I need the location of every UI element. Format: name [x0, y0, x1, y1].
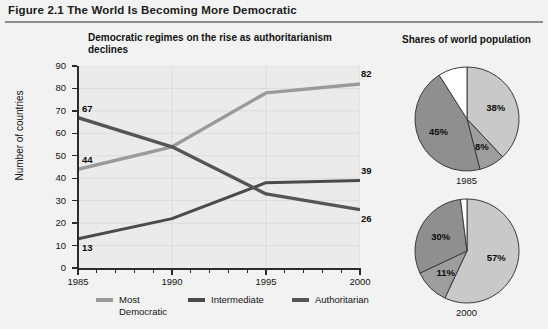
legend-item[interactable]: Most Democratic [96, 294, 167, 317]
y-tick-label: 90 [0, 60, 75, 71]
line-chart-panel: Democratic regimes on the rise as author… [0, 26, 385, 329]
y-tick-label: 80 [0, 82, 75, 93]
y-tick-label: 70 [0, 105, 75, 116]
x-tick [134, 269, 135, 273]
x-tick [228, 269, 229, 273]
x-tick [359, 269, 360, 275]
series-line-authoritarian [78, 118, 360, 210]
legend-swatch-icon [292, 298, 309, 302]
y-axis-line [77, 66, 79, 269]
figure-header: Figure 2.1 The World Is Becoming More De… [0, 0, 548, 26]
x-tick [171, 269, 172, 275]
x-tick [190, 269, 191, 273]
y-tick-label: 0 [0, 262, 75, 273]
pie-slice-label: 30% [431, 231, 451, 242]
x-tick-label: 1995 [246, 276, 286, 287]
pie-svg: 57%11%30% [412, 196, 522, 306]
x-tick [153, 269, 154, 273]
legend-label: Authoritarian [315, 294, 369, 306]
series-lines [78, 84, 360, 239]
x-tick [247, 269, 248, 273]
y-tick-label: 40 [0, 172, 75, 183]
series-line-intermediate [78, 180, 360, 238]
pie-chart-1985: 38%8%45%1985 [385, 64, 548, 192]
pie-slice-label: 11% [436, 267, 455, 278]
y-tick-label: 60 [0, 127, 75, 138]
x-axis-line [77, 268, 361, 270]
x-tick [209, 269, 210, 273]
pie-caption: 1985 [385, 175, 548, 186]
pie-chart-2000: 57%11%30%2000 [385, 196, 548, 324]
y-axis-label: Number of countries [14, 61, 25, 211]
point-label-intermediate-1985: 13 [82, 242, 93, 253]
x-tick [284, 269, 285, 273]
plot-area [78, 66, 360, 268]
legend-label: Most Democratic [119, 294, 167, 317]
page-title: Figure 2.1 The World Is Becoming More De… [8, 4, 297, 16]
x-tick [341, 269, 342, 273]
line-chart-svg [78, 66, 360, 268]
pie-caption: 2000 [385, 307, 548, 318]
x-tick [265, 269, 266, 275]
legend-swatch-icon [188, 298, 205, 302]
pie-slice-label: 38% [486, 102, 506, 113]
title-divider [5, 21, 543, 23]
point-label-most-democratic-2000: 82 [361, 68, 372, 79]
legend-item[interactable]: Intermediate [188, 294, 264, 306]
point-label-authoritarian-2000: 26 [361, 213, 372, 224]
series-line-most-democratic [78, 84, 360, 169]
legend-item[interactable]: Authoritarian [292, 294, 369, 306]
x-tick [115, 269, 116, 273]
point-label-most-democratic-1985: 44 [82, 154, 93, 165]
pie-chart-panel: Shares of world population 38%8%45%1985 … [385, 26, 548, 329]
pie-slice-label: 45% [429, 126, 449, 137]
x-tick-label: 2000 [340, 276, 380, 287]
x-tick [322, 269, 323, 273]
pie-slice-label: 8% [475, 141, 489, 152]
x-tick [303, 269, 304, 273]
legend-label: Intermediate [211, 294, 264, 306]
x-tick-label: 1990 [152, 276, 192, 287]
point-label-authoritarian-1985: 67 [82, 103, 93, 114]
y-tick-label: 50 [0, 150, 75, 161]
legend-swatch-icon [96, 298, 113, 302]
x-tick [96, 269, 97, 273]
x-tick-label: 1985 [58, 276, 98, 287]
y-tick-label: 20 [0, 217, 75, 228]
y-tick-label: 10 [0, 240, 75, 251]
pie-svg: 38%8%45% [412, 64, 522, 174]
x-tick [77, 269, 78, 275]
gridlines [78, 66, 360, 268]
legend: Most DemocraticIntermediateAuthoritarian [96, 294, 386, 328]
line-chart-title: Democratic regimes on the rise as author… [88, 32, 338, 56]
pie-slice-label: 57% [486, 252, 506, 263]
pie-panel-title: Shares of world population [385, 34, 548, 46]
y-tick-label: 30 [0, 195, 75, 206]
point-label-intermediate-2000: 39 [361, 165, 372, 176]
